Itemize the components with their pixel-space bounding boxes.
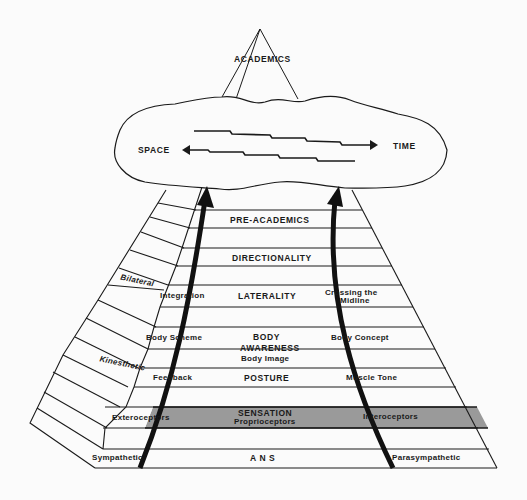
posture-label: POSTURE <box>244 374 289 383</box>
pre-academics-label: PRE-ACADEMICS <box>230 216 310 225</box>
body-scheme-label: Body Scheme <box>146 334 202 342</box>
laterality-label: LATERALITY <box>238 292 296 301</box>
left-arrow-head <box>197 186 214 208</box>
sympathetic-label: Sympathetic <box>92 454 143 462</box>
muscle-tone-label: Muscle Tone <box>346 374 397 382</box>
awareness-label: AWARENESS <box>240 344 300 353</box>
right-arrow-head <box>327 186 343 207</box>
midline-label: Midline <box>340 297 370 305</box>
directionality-label: DIRECTIONALITY <box>232 254 312 263</box>
body-concept-label: Body Concept <box>331 334 389 342</box>
body-label: BODY <box>253 333 280 342</box>
integration-label: Integration <box>160 292 205 300</box>
body-image-label: Body Image <box>241 355 289 363</box>
time-label: TIME <box>393 142 416 151</box>
apex-lines <box>222 29 298 99</box>
interoceptors-label: Interoceptors <box>363 413 418 421</box>
proprioceptors-label: Proprioceptors <box>234 418 296 426</box>
parasympathetic-label: Parasympathetic <box>392 454 461 462</box>
sensation-shade <box>145 407 488 428</box>
ans-label: A N S <box>250 454 275 463</box>
exteroceptors-label: Exteroceptors <box>112 414 170 422</box>
academics-label: ACADEMICS <box>234 55 291 64</box>
feedback-label: Feedback <box>153 374 192 382</box>
space-label: SPACE <box>138 146 170 155</box>
